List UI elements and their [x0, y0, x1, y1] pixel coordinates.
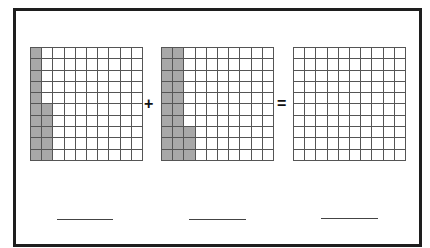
- grid-cell: [173, 138, 184, 149]
- grid-cell: [207, 116, 218, 127]
- grid-cell: [294, 59, 305, 70]
- grid-cell: [372, 127, 383, 138]
- grid-cell: [339, 71, 350, 82]
- grid-cell: [184, 59, 195, 70]
- grid-cell: [162, 71, 173, 82]
- grid-cell: [240, 104, 251, 115]
- grid-cell: [384, 150, 395, 161]
- grid-cell: [162, 150, 173, 161]
- grid-cell: [218, 150, 229, 161]
- grid-cell: [53, 71, 64, 82]
- grid-cell: [229, 48, 240, 59]
- grid-cell: [65, 127, 76, 138]
- grid-cell: [184, 82, 195, 93]
- grid-cell: [31, 150, 42, 161]
- grid-cell: [361, 59, 372, 70]
- grid-cell: [328, 82, 339, 93]
- plus-sign: +: [144, 96, 153, 112]
- grid-cell: [252, 71, 263, 82]
- grid-cell: [361, 93, 372, 104]
- grid-cell: [31, 93, 42, 104]
- grid-cell: [229, 150, 240, 161]
- grid-cell: [76, 116, 87, 127]
- grid-cell: [305, 93, 316, 104]
- grid-cell: [196, 71, 207, 82]
- grid-cell: [339, 150, 350, 161]
- grid-cell: [350, 116, 361, 127]
- grid-cell: [42, 104, 53, 115]
- grid-cell: [229, 71, 240, 82]
- grid-cell: [162, 116, 173, 127]
- grid-cell: [132, 93, 143, 104]
- grid-cell: [240, 138, 251, 149]
- grid-cell: [229, 82, 240, 93]
- grid-cell: [240, 82, 251, 93]
- grid-cell: [98, 138, 109, 149]
- grid-cell: [42, 127, 53, 138]
- grid-cell: [240, 93, 251, 104]
- grid-cell: [361, 116, 372, 127]
- grid-cell: [384, 82, 395, 93]
- grid-cell: [132, 71, 143, 82]
- grid-cell: [173, 48, 184, 59]
- grid-cell: [294, 104, 305, 115]
- grid-cell: [218, 82, 229, 93]
- grid-cell: [196, 116, 207, 127]
- grid-cell: [350, 59, 361, 70]
- answer-blank-2[interactable]: [189, 219, 246, 220]
- grid-cell: [53, 93, 64, 104]
- grid-cell: [87, 104, 98, 115]
- grid-cell: [305, 59, 316, 70]
- grid-cell: [121, 116, 132, 127]
- grid-cell: [31, 116, 42, 127]
- grid-cell: [328, 127, 339, 138]
- grid-cell: [252, 127, 263, 138]
- grid-cell: [121, 48, 132, 59]
- grid-cell: [339, 138, 350, 149]
- grid-cell: [361, 48, 372, 59]
- grid-cell: [173, 150, 184, 161]
- grid-cell: [98, 104, 109, 115]
- grid-cell: [294, 127, 305, 138]
- grid-cell: [173, 93, 184, 104]
- grid-cell: [132, 127, 143, 138]
- grid-cell: [53, 104, 64, 115]
- grid-cell: [162, 104, 173, 115]
- grid-cell: [184, 127, 195, 138]
- grid-cell: [196, 59, 207, 70]
- grid-cell: [339, 116, 350, 127]
- answer-blank-1[interactable]: [57, 219, 113, 220]
- grid-cell: [53, 127, 64, 138]
- grid-cell: [395, 127, 406, 138]
- grid-cell: [339, 48, 350, 59]
- grid-cell: [263, 82, 274, 93]
- grid-cell: [350, 150, 361, 161]
- grid-cell: [53, 150, 64, 161]
- grid-cell: [384, 127, 395, 138]
- grid-cell: [109, 71, 120, 82]
- grid-cell: [173, 104, 184, 115]
- grid-cell: [87, 93, 98, 104]
- grid-cell: [184, 116, 195, 127]
- answer-blank-3[interactable]: [321, 218, 378, 219]
- grid-cell: [65, 71, 76, 82]
- grid-cell: [372, 93, 383, 104]
- hundred-grid-addend-2: [161, 47, 274, 161]
- grid-cell: [132, 59, 143, 70]
- grid-cell: [121, 138, 132, 149]
- grid-cell: [372, 116, 383, 127]
- grid-cell: [207, 48, 218, 59]
- grid-cell: [76, 71, 87, 82]
- grid-cell: [65, 59, 76, 70]
- grid-cell: [316, 127, 327, 138]
- grid-cell: [196, 82, 207, 93]
- grid-cell: [109, 127, 120, 138]
- grid-cell: [395, 93, 406, 104]
- grid-cell: [240, 127, 251, 138]
- grid-cell: [229, 59, 240, 70]
- grid-cell: [53, 82, 64, 93]
- grid-cell: [184, 150, 195, 161]
- grid-cell: [305, 48, 316, 59]
- grid-cell: [53, 138, 64, 149]
- grid-cell: [98, 59, 109, 70]
